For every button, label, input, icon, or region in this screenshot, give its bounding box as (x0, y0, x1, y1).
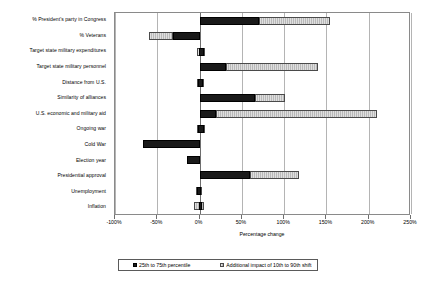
bar-row (115, 121, 409, 136)
bar-row (115, 59, 409, 74)
bar-row (115, 199, 409, 214)
bar-segment-percentile (198, 79, 203, 87)
x-axis-tick-label: 200% (361, 219, 374, 225)
category-axis-labels: % President's party in Congress % Vetera… (0, 12, 110, 215)
category-label: % President's party in Congress (0, 12, 110, 28)
category-label: Ongoing war (0, 121, 110, 137)
x-axis-tick-label: 250% (403, 219, 416, 225)
bar-segment-percentile (199, 48, 204, 56)
bar-row (115, 44, 409, 59)
x-axis-tick-label: 100% (277, 219, 290, 225)
bar-segment-percentile (200, 110, 217, 118)
bar-rows (115, 13, 409, 214)
bar-segment-percentile (143, 140, 200, 148)
bar-row (115, 13, 409, 28)
category-label: Similarity of alliances (0, 90, 110, 106)
x-axis-tick-label: 0% (195, 219, 203, 225)
category-label: Target state military personnel (0, 59, 110, 75)
bar-segment-percentile (200, 63, 226, 71)
bar-segment-percentile (173, 32, 199, 40)
category-label: Distance from U.S. (0, 74, 110, 90)
x-axis-title: Percentage change (114, 231, 410, 237)
category-label: Unemployment (0, 184, 110, 200)
legend-item-additional-impact: Additional impact of 10th to 90th shift (220, 262, 311, 268)
category-label: Presidential approval (0, 168, 110, 184)
bar-segment-additional (226, 63, 318, 71)
legend-label: Additional impact of 10th to 90th shift (226, 262, 311, 268)
category-label: Cold War (0, 137, 110, 153)
dark-swatch-icon (133, 263, 137, 267)
category-label: Target state military expenditures (0, 43, 110, 59)
percentage-change-bar-chart: % President's party in Congress % Vetera… (0, 0, 436, 282)
bar-segment-percentile (199, 202, 202, 210)
x-axis-tick-label: -100% (107, 219, 122, 225)
x-axis-tick-label: 150% (319, 219, 332, 225)
x-axis-tick-label: -50% (150, 219, 162, 225)
bar-row (115, 75, 409, 90)
chart-legend: 25th to 75th percentile Additional impac… (118, 259, 318, 271)
category-label: Inflation (0, 199, 110, 215)
bar-segment-percentile (200, 17, 259, 25)
legend-label: 25th to 75th percentile (139, 262, 190, 268)
category-label: U.S. economic and military aid (0, 106, 110, 122)
bar-row (115, 168, 409, 183)
bar-row (115, 106, 409, 121)
bar-segment-additional (255, 94, 285, 102)
legend-item-percentile: 25th to 75th percentile (133, 262, 190, 268)
hatched-swatch-icon (220, 263, 224, 267)
bar-segment-additional (216, 110, 377, 118)
bar-segment-additional (259, 17, 330, 25)
bar-segment-percentile (198, 125, 204, 133)
category-label: % Veterans (0, 28, 110, 44)
bar-segment-additional (149, 32, 174, 40)
bar-segment-additional (250, 171, 299, 179)
gridline (411, 13, 412, 214)
x-axis-tick-labels: -100%-50%0%50%100%150%200%250% (114, 219, 410, 228)
bar-segment-percentile (187, 156, 200, 164)
bar-row (115, 137, 409, 152)
bar-row (115, 152, 409, 167)
bar-segment-percentile (200, 94, 256, 102)
plot-area (114, 12, 410, 215)
bar-segment-percentile (200, 171, 251, 179)
bar-segment-percentile (197, 187, 201, 195)
bar-row (115, 183, 409, 198)
bar-row (115, 28, 409, 43)
bar-row (115, 90, 409, 105)
x-axis-tick-label: 50% (236, 219, 246, 225)
category-label: Election year (0, 152, 110, 168)
